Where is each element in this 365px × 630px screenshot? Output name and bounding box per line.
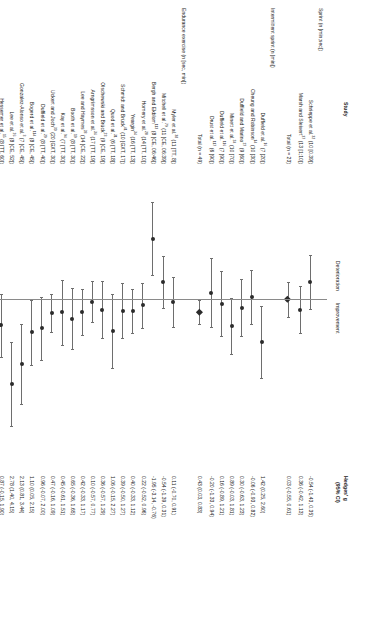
effect-size-value: -0.20 (-1.33, 0.94) [209,476,215,517]
direction-label-deterioration: Deterioration [335,261,341,291]
ci-upper-cap [71,349,74,350]
study-row-label: Yeargin34 (16 [TT, 13]) [131,114,137,164]
reference-superscript: 15 [2,134,6,138]
reference-superscript: 31 [113,134,117,138]
reference-superscript: 29 [42,134,46,138]
group-heading: Endurance exercise (n [sec, min]) [181,8,187,84]
reference-superscript: 117 [212,141,216,147]
ci-lower-cap [111,294,114,295]
ci-lower-cap [287,282,290,283]
study-row-label: Myler et al.38 (11 [TT, 8]) [171,109,177,164]
effect-point-marker [80,310,84,314]
reference-superscript: 28 [83,130,87,134]
reference-superscript: 94 [62,134,66,138]
reference-superscript: 79 [163,123,167,127]
ci-upper-cap [51,332,54,333]
ci-upper-cap [210,327,213,328]
effect-size-value: 0.36 (-0.42, 1.13) [298,476,304,515]
effect-size-value: 0.40 (-0.33, 1.12) [131,476,137,515]
ci-lower-cap [121,283,124,284]
ci-upper-cap [141,328,144,329]
reference-superscript: 27 [242,142,246,146]
effect-point-marker [308,280,312,284]
study-row-label: Uckert and Joch30 (20 [GXT, 30]) [50,90,56,164]
effect-point-marker [50,311,54,315]
reference-superscript: 38 [174,134,178,138]
ci-upper-cap [240,336,243,337]
ci-lower-cap [261,306,264,307]
ci-lower-cap [81,289,84,290]
effect-size-value: 0.89 (-0.03, 1.81) [229,476,235,515]
effect-size-value: 0.42 (-0.33, 1.17) [80,476,86,515]
ci-upper-cap [162,308,165,309]
reference-superscript: 20 [143,131,147,135]
study-row-label: Hessemer et al.15 (8 [TT, 60]) [0,98,5,164]
reference-superscript: 26 [12,133,16,137]
study-row-label: Kay et al.94 (7 [TT, 30]) [60,113,66,164]
reference-superscript: 3 [22,134,26,136]
effect-point-marker [131,309,135,313]
study-row-label: Quod et al.31 (6 [TT, 18]) [110,109,116,164]
ci-upper-cap [230,354,233,355]
study-row-label: Olschewski and Brück23 (9 [CE, 19]) [100,82,106,164]
effect-point-marker [298,308,302,312]
effect-size-value: -0.06 (-0.93, 0.82) [250,476,256,517]
study-row-label: Cheung and Robinson14 (10 [30]) [250,89,256,164]
effect-point-marker [210,291,214,295]
group-heading: Sprint (n [min;sec]) [318,8,324,51]
effect-point-marker [121,309,125,313]
effect-size-value: 1.42 (0.25, 2.60) [260,476,266,514]
reference-superscript: 30 [52,127,56,131]
effect-size-value: -1.95 (-3.14, -0.76) [151,476,157,519]
ci-lower-cap [10,342,13,343]
effect-size-value: -0.54 (-1.39, 0.31) [161,476,167,517]
reference-superscript: 41 [123,127,127,131]
effect-point-marker [240,306,244,310]
study-row-label: Lee et al.26 (8 [CE, 52]) [9,111,15,164]
reference-superscript: 32 [311,135,315,139]
study-row-label: Lee and Haymes28 (14 [CE, 22]) [80,91,86,164]
direction-label-improvement: Improvement [335,303,341,334]
ci-lower-cap [299,286,302,287]
ci-lower-cap [91,281,94,282]
effect-size-value: 0.22 (-0.52, 0.96) [141,476,147,515]
effect-point-marker [60,310,64,314]
ci-lower-cap [141,283,144,284]
reference-superscript: 16 [262,142,266,146]
ci-lower-cap [40,297,43,298]
ci-upper-cap [220,336,223,337]
ci-upper-cap [131,333,134,334]
study-row-label: Minett et al.24 (10 [70]) [229,113,235,164]
ci-lower-cap [210,258,213,259]
ci-lower-cap [0,294,3,295]
ci-lower-cap [61,280,64,281]
reference-superscript: 34 [133,131,137,135]
reference-superscript: 113 [153,124,157,130]
effect-size-value: 0.16 (-0.89, 1.21) [219,476,225,515]
effect-size-value: 1.10 (0.05, 2.15) [30,476,36,514]
ci-upper-cap [10,426,13,427]
ci-lower-cap [250,270,253,271]
ci-lower-cap [309,255,312,256]
effect-size-value: 0.10 (-0.57, 0.77) [90,476,96,515]
reference-superscript: 23 [103,133,107,137]
effect-point-marker [10,382,14,386]
effect-point-marker [230,324,234,328]
ci-upper-cap [309,309,312,310]
effect-size-value: 0.11 (-0.70, 0.91) [171,476,177,515]
ci-upper-cap [121,338,124,339]
study-row-label: Drust et al.117 (6 [90]) [209,116,215,164]
ci-upper-cap [261,378,264,379]
study-row-label: Schrieppe et al.32 (10 [0.39]) [308,100,314,164]
study-row-label: Gonzalez-Alonso et al.3 (7 [CE, 45]) [19,83,25,164]
effect-size-value: 2.78 (1.40, 4.15) [9,476,15,514]
effect-size-value: 0.39 (-0.50, 1.27) [120,476,126,515]
effect-size-value: 0.36 (-0.57, 1.29) [100,476,106,515]
study-row-label: Duffield and Marino27 (9 [60]) [240,98,246,164]
ci-lower-cap [51,294,54,295]
ci-upper-cap [0,357,3,358]
ci-upper-cap [250,324,253,325]
ci-lower-cap [101,281,104,282]
ci-upper-cap [30,365,33,366]
summary-diamond [196,309,202,315]
